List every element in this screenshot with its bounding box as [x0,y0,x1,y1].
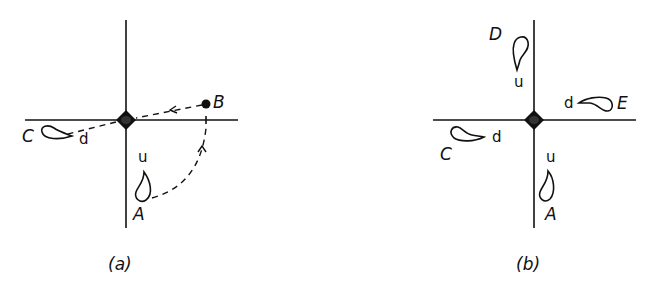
panel-b-label-e: E [617,95,628,112]
panel-b-a-teardrop-icon [540,171,554,201]
panel-b-c-teardrop-icon [451,127,484,141]
path-a-to-b [152,128,206,198]
panel-b-origin-diamond-icon [524,110,544,130]
panel-a-label-b: B [213,94,225,111]
panel-a-caption: (a) [108,256,132,273]
panel-a-paths [64,105,206,198]
panel-b-label-a: A [545,206,557,223]
path-origin-to-c [64,122,116,135]
panel-a-label-c-orientation: d [79,132,89,147]
panel-a-origin-diamond-icon [116,110,136,130]
diagram-canvas [0,0,657,296]
panel-b-label-d: D [489,26,502,43]
panel-b-label-c: C [440,146,452,163]
panel-a-c-teardrop-icon [42,126,72,139]
panel-a-label-a-orientation: u [138,150,148,165]
panel-b-d-teardrop-icon [513,37,528,70]
path-b-to-origin [136,105,202,118]
panel-a-a-teardrop-icon [136,172,151,201]
panel-b-label-a-orientation: u [546,150,556,165]
panel-b-label-d-orientation: u [514,75,524,90]
panel-a-label-c: C [22,128,34,145]
panel-b-label-e-orientation: d [564,96,574,111]
panel-a-point-b-icon [202,100,211,109]
panel-b-caption: (b) [516,256,540,273]
panel-b-e-teardrop-icon [579,97,612,111]
panel-b-label-c-orientation: d [492,130,502,145]
panel-a-label-a: A [133,206,145,223]
